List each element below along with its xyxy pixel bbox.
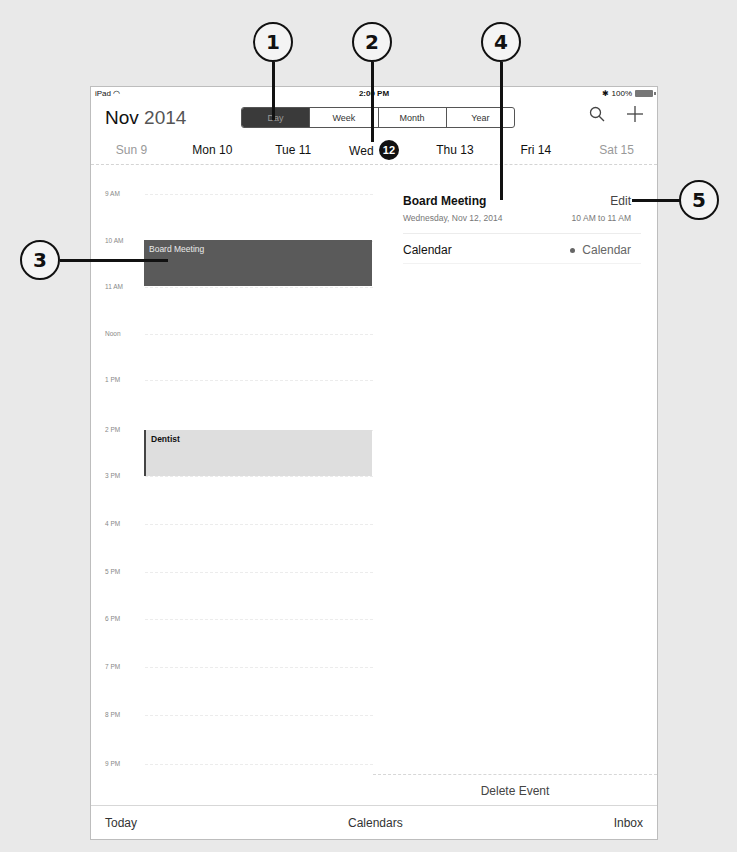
month-title[interactable]: Nov 2014 <box>105 107 186 129</box>
hour-row: 11 AM <box>91 287 373 288</box>
day-number: 10 <box>219 143 232 157</box>
hour-row: 9 AM <box>91 194 373 195</box>
day-name: Tue <box>275 143 295 157</box>
tab-day[interactable]: Day <box>242 108 309 127</box>
day-thu-13[interactable]: Thu 13 <box>414 135 495 164</box>
year-label: 2014 <box>144 107 186 128</box>
hour-label: 6 PM <box>105 615 143 622</box>
hour-label: 5 PM <box>105 568 143 575</box>
event-title: Dentist <box>151 434 180 444</box>
callout-2: 2 <box>352 22 392 62</box>
event-detail-date: Wednesday, Nov 12, 2014 <box>403 213 502 223</box>
event-board-meeting[interactable]: Board Meeting <box>144 240 372 286</box>
hour-row: 6 PM <box>91 619 373 620</box>
search-icon[interactable] <box>589 105 605 125</box>
tab-year[interactable]: Year <box>446 108 514 127</box>
status-bar: iPad ◠ 2:00 PM ✱ 100% <box>91 87 657 101</box>
hour-gridline <box>145 572 373 573</box>
day-name: Sun <box>116 143 137 157</box>
month-label: Nov <box>105 107 139 128</box>
selected-day-badge: 12 <box>379 140 399 160</box>
hour-gridline <box>145 287 373 288</box>
hour-label: 1 PM <box>105 376 143 383</box>
callout-5-leader <box>632 199 680 202</box>
day-name: Fri <box>520 143 534 157</box>
status-right: ✱ 100% <box>602 89 653 98</box>
hour-gridline <box>145 476 373 477</box>
day-tue-11[interactable]: Tue 11 <box>253 135 334 164</box>
hour-gridline <box>145 667 373 668</box>
hour-label: 10 AM <box>105 237 143 244</box>
divider <box>403 263 641 264</box>
callout-1: 1 <box>253 22 293 62</box>
week-strip: Sun 9 Mon 10 Tue 11 Wed 12 Thu 13 Fri 14… <box>91 135 657 165</box>
hour-row: 9 PM <box>91 764 373 765</box>
day-number: 11 <box>299 143 311 157</box>
event-detail-panel: Board Meeting Edit Wednesday, Nov 12, 20… <box>373 166 657 774</box>
hour-label: Noon <box>105 330 143 337</box>
callout-4: 4 <box>481 22 521 62</box>
battery-percent: 100% <box>612 89 632 98</box>
hour-gridline <box>145 715 373 716</box>
day-number: 13 <box>460 143 473 157</box>
delete-event-button[interactable]: Delete Event <box>373 774 657 806</box>
hour-row: 7 PM <box>91 667 373 668</box>
bluetooth-icon: ✱ <box>602 89 609 98</box>
hour-label: 7 PM <box>105 663 143 670</box>
day-fri-14[interactable]: Fri 14 <box>495 135 576 164</box>
hour-row: 3 PM <box>91 476 373 477</box>
day-name: Thu <box>436 143 457 157</box>
calendars-button[interactable]: Calendars <box>348 816 403 830</box>
hour-label: 9 PM <box>105 760 143 767</box>
day-mon-10[interactable]: Mon 10 <box>172 135 253 164</box>
callout-4-leader <box>500 62 503 200</box>
day-name: Sat <box>599 143 617 157</box>
hour-label: 3 PM <box>105 472 143 479</box>
event-title: Board Meeting <box>149 244 204 254</box>
hour-gridline <box>145 380 373 381</box>
day-number: 14 <box>538 143 551 157</box>
hour-label: 8 PM <box>105 711 143 718</box>
edit-button[interactable]: Edit <box>610 194 631 208</box>
calendar-row-value[interactable]: Calendar <box>570 243 631 257</box>
bottom-toolbar: Today Calendars Inbox <box>91 805 657 839</box>
event-dentist[interactable]: Dentist <box>144 430 372 476</box>
today-button[interactable]: Today <box>105 816 137 830</box>
day-sun-9[interactable]: Sun 9 <box>91 135 172 164</box>
day-timeline[interactable]: 9 AM 10 AM 11 AM Noon 1 PM 2 PM 3 PM 4 P… <box>91 166 373 806</box>
toolbar-icons <box>589 105 643 125</box>
event-detail-title: Board Meeting <box>403 194 486 208</box>
callout-2-leader <box>371 62 374 142</box>
hour-gridline <box>145 619 373 620</box>
inbox-button[interactable]: Inbox <box>614 816 643 830</box>
hour-gridline <box>145 524 373 525</box>
plus-icon[interactable] <box>627 105 643 125</box>
calendar-name: Calendar <box>582 243 631 257</box>
hour-row: 4 PM <box>91 524 373 525</box>
hour-row: 8 PM <box>91 715 373 716</box>
hour-label: 9 AM <box>105 190 143 197</box>
day-name: Mon <box>192 143 215 157</box>
tab-month[interactable]: Month <box>378 108 446 127</box>
day-wed-12-selected[interactable]: Wed 12 <box>334 135 415 164</box>
battery-icon <box>635 90 653 97</box>
divider <box>403 233 641 234</box>
day-sat-15[interactable]: Sat 15 <box>576 135 657 164</box>
view-switcher: Day Week Month Year <box>241 107 515 128</box>
hour-label: 2 PM <box>105 426 143 433</box>
ipad-screen: iPad ◠ 2:00 PM ✱ 100% Nov 2014 Day Week … <box>90 86 658 840</box>
callout-3: 3 <box>20 240 60 280</box>
status-time: 2:00 PM <box>91 89 657 98</box>
hour-gridline <box>145 764 373 765</box>
callout-1-leader <box>272 62 275 120</box>
tab-week[interactable]: Week <box>309 108 377 127</box>
hour-label: 11 AM <box>105 283 143 290</box>
day-number: 9 <box>140 143 147 157</box>
hour-label: 4 PM <box>105 520 143 527</box>
callout-5: 5 <box>679 180 719 220</box>
day-number: 15 <box>621 143 634 157</box>
calendar-row-label[interactable]: Calendar <box>403 243 452 257</box>
hour-row: 5 PM <box>91 572 373 573</box>
hour-gridline <box>145 334 373 335</box>
event-detail-time: 10 AM to 11 AM <box>572 213 631 223</box>
